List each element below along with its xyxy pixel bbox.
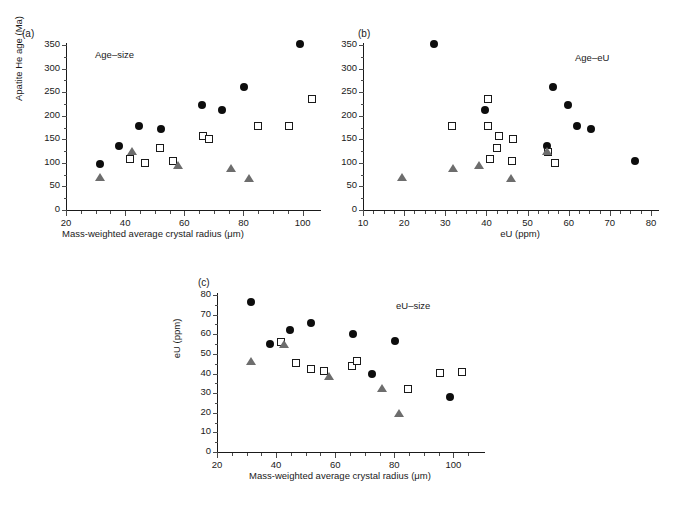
- panel-b-point-square: [484, 95, 492, 103]
- panel-a-x-minortick: [140, 211, 141, 214]
- panel-letter-c: (c): [198, 277, 210, 288]
- panel-c-y-tick: [213, 413, 218, 414]
- panel-c-point-triangle: [394, 409, 404, 417]
- panel-c-y-tick: [213, 295, 218, 296]
- panel-b-y-tick: [359, 116, 364, 117]
- panel-c-y-ticklabel: 0: [181, 446, 211, 456]
- panel-c-point-triangle: [324, 372, 334, 380]
- panel-b-y-tick: [359, 92, 364, 93]
- panel-a-x-minortick: [214, 211, 215, 214]
- panel-b-x-minortick: [589, 211, 590, 214]
- panel-c-x-minortick: [424, 453, 425, 456]
- panel-c-x-minortick: [261, 453, 262, 456]
- panel-b-x-tick: [528, 211, 529, 216]
- panel-a-y-ticklabel: 300: [30, 63, 60, 73]
- panel-a-point-circle: [296, 40, 304, 48]
- panel-c-x-tick: [453, 453, 454, 458]
- panel-a-point-square: [285, 122, 293, 130]
- panel-b-y-minortick: [361, 57, 364, 58]
- panel-a-x-tick: [66, 211, 67, 216]
- panel-b-x-minortick: [579, 211, 580, 214]
- panel-b-x-minortick: [456, 211, 457, 214]
- panel-a-x-minortick: [96, 211, 97, 214]
- panel-c-y-minortick: [215, 324, 218, 325]
- panel-a-point-triangle: [127, 147, 137, 155]
- panel-a-y-tick: [62, 186, 67, 187]
- panel-b-point-square: [495, 132, 503, 140]
- panel-a-point-circle: [157, 125, 165, 133]
- panel-b-x-tick: [651, 211, 652, 216]
- panel-c-x-minortick: [291, 453, 292, 456]
- panel-c-point-circle: [266, 340, 274, 348]
- panel-b-x-ticklabel: 70: [594, 218, 626, 228]
- panel-c-y-minortick: [215, 403, 218, 404]
- panel-c-y-minortick: [215, 442, 218, 443]
- panel-a-x-ticklabel: 60: [168, 218, 200, 228]
- panel-a-y-tick: [62, 163, 67, 164]
- panel-b-x-minortick: [620, 211, 621, 214]
- panel-a-y-ticklabel: 200: [30, 110, 60, 120]
- panel-c-y-minortick: [215, 383, 218, 384]
- panel-c-y-tick: [213, 354, 218, 355]
- panel-a-point-circle: [135, 122, 143, 130]
- panel-a-x-tick: [303, 211, 304, 216]
- panel-c-y-ticklabel: 10: [181, 426, 211, 436]
- panel-c-x-ticklabel: 80: [378, 460, 410, 470]
- panel-b-x-minortick: [373, 211, 374, 214]
- panel-b-x-tick: [445, 211, 446, 216]
- panel-b-point-square: [509, 135, 517, 143]
- panel-c-y-ticklabel: 50: [181, 348, 211, 358]
- panel-c-x-minortick: [350, 453, 351, 456]
- panel-b-point-square: [493, 144, 501, 152]
- panel-c-point-circle: [349, 330, 357, 338]
- panel-c-x-tick: [394, 453, 395, 458]
- panel-a-y-tick: [62, 139, 67, 140]
- panel-a-x-tick: [125, 211, 126, 216]
- panel-a-point-circle: [115, 142, 123, 150]
- panel-b-x-minortick: [394, 211, 395, 214]
- panel-c-y-ticklabel: 40: [181, 368, 211, 378]
- panel-c-point-circle: [446, 393, 454, 401]
- panel-c-x-axis: [217, 452, 485, 453]
- panel-a-point-circle: [240, 83, 248, 91]
- panel-c-point-triangle: [279, 340, 289, 348]
- panel-b-y-tick: [359, 163, 364, 164]
- panel-a-y-minortick: [64, 128, 67, 129]
- panel-c-x-minortick: [306, 453, 307, 456]
- panel-b-x-ticklabel: 60: [553, 218, 585, 228]
- panel-c-y-ticklabel: 70: [181, 309, 211, 319]
- panel-b-point-triangle: [474, 161, 484, 169]
- panel-b-point-triangle: [506, 174, 516, 182]
- panel-b-point-circle: [430, 40, 438, 48]
- panel-b-x-ticklabel: 50: [512, 218, 544, 228]
- panel-b-point-square: [486, 155, 494, 163]
- panel-b-point-square: [448, 122, 456, 130]
- panel-c-x-tick: [217, 453, 218, 458]
- panel-b-y-ticklabel: 200: [327, 110, 357, 120]
- panel-c-point-square: [353, 357, 361, 365]
- panel-b-y-minortick: [361, 175, 364, 176]
- panel-letter-b: (b): [358, 28, 370, 39]
- panel-c-x-minortick: [365, 453, 366, 456]
- panel-a-y-ticklabel: 150: [30, 133, 60, 143]
- panel-a-point-circle: [218, 106, 226, 114]
- panel-b-y-minortick: [361, 104, 364, 105]
- panel-b-x-minortick: [548, 211, 549, 214]
- panel-a-x-minortick: [288, 211, 289, 214]
- panel-b-x-minortick: [538, 211, 539, 214]
- panel-c-x-minortick: [409, 453, 410, 456]
- panel-b-point-circle: [631, 157, 639, 165]
- panel-c-point-circle: [391, 337, 399, 345]
- panel-c-y-tick: [213, 315, 218, 316]
- panel-b-x-tick: [610, 211, 611, 216]
- panel-b-point-square: [508, 157, 516, 165]
- panel-c-x-minortick: [247, 453, 248, 456]
- panel-b-point-circle: [481, 106, 489, 114]
- panel-a-point-circle: [198, 101, 206, 109]
- panel-a-point-triangle: [173, 161, 183, 169]
- panel-b-y-ticklabel: 350: [327, 39, 357, 49]
- panel-b-point-square: [484, 122, 492, 130]
- panel-c-y-ticklabel: 80: [181, 289, 211, 299]
- panel-letter-a: (a): [22, 28, 34, 39]
- panel-b-x-minortick: [435, 211, 436, 214]
